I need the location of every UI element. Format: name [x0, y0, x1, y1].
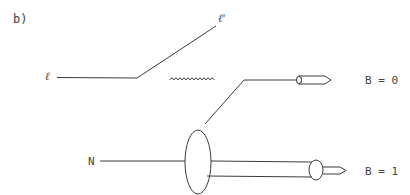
nucleon-label: N: [88, 156, 95, 167]
lower-jet-arrow-icon: [309, 160, 346, 180]
nucleon-blob: [185, 130, 211, 194]
incoming-lepton-label: ℓ: [45, 71, 50, 82]
outgoing-lepton-line: [137, 26, 216, 78]
incoming-lepton-line: [57, 78, 137, 79]
upper-final-state-label: B = 0: [365, 75, 398, 86]
photon-to-nucleon-line: [205, 80, 244, 124]
upper-jet-arrow-icon: [297, 76, 332, 84]
outgoing-lepton-label: ℓ': [218, 13, 226, 24]
diagram-canvas: [0, 0, 410, 195]
lower-jet-line-bottom: [207, 176, 312, 177]
lower-jet-line-top: [211, 161, 312, 162]
lower-final-state-label: B = 1: [365, 166, 398, 177]
virtual-photon-wavy-line: [170, 78, 214, 80]
panel-label: b): [13, 13, 27, 25]
